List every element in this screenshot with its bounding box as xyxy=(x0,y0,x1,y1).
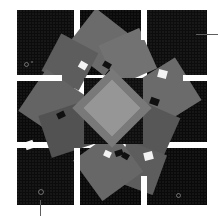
leader-line-right xyxy=(196,34,218,35)
leader-line-bottom-left xyxy=(40,200,41,216)
speck-bottom-right xyxy=(176,193,181,198)
figure-canvas xyxy=(0,0,218,216)
speck-bottom-left xyxy=(38,189,44,195)
speck-layer xyxy=(0,0,218,216)
